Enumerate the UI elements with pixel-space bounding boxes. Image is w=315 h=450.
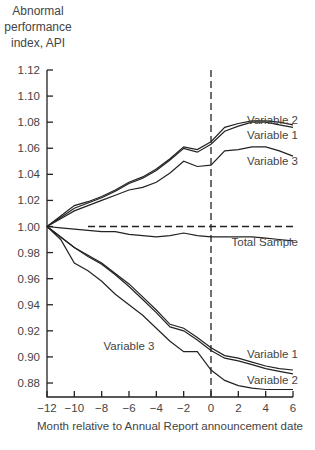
y-tick-label: 1.02 — [18, 194, 40, 206]
y-tick-label: 0.98 — [18, 247, 40, 259]
x-tick-label: −6 — [122, 402, 135, 414]
x-tick-label: −10 — [65, 402, 85, 414]
x-tick-label: 2 — [235, 402, 241, 414]
y-tick-label: 0.90 — [18, 351, 40, 363]
label-variable-3-lower: Variable 3 — [104, 340, 155, 352]
label-variable-2-upper: Variable 2 — [247, 114, 298, 126]
series-labels: Variable 2Variable 1Variable 3Total Samp… — [104, 114, 298, 387]
x-tick-label: 4 — [262, 402, 269, 414]
x-tick-label: 6 — [290, 402, 296, 414]
y-label-line: Abnormal — [12, 4, 63, 18]
y-tick-label: 1.06 — [18, 142, 40, 154]
x-axis-label: Month relative to Annual Report announce… — [37, 420, 303, 432]
x-tick-labels: −12−10−8−6−4−20246 — [37, 402, 296, 414]
y-tick-label: 1.00 — [18, 221, 40, 233]
label-variable-1-lower: Variable 1 — [247, 348, 298, 360]
y-tick-label: 0.96 — [18, 273, 40, 285]
y-axis-label: Abnormalperformanceindex, API — [4, 4, 72, 50]
line-chart: Abnormalperformanceindex, API 0.880.900.… — [0, 0, 315, 450]
x-tick-label: −2 — [177, 402, 190, 414]
label-variable-1-upper: Variable 1 — [247, 129, 298, 141]
line-variable-3-lower — [47, 227, 293, 390]
y-tick-label: 1.04 — [18, 168, 41, 180]
label-variable-2-lower: Variable 2 — [247, 374, 298, 386]
y-tick-label: 0.94 — [18, 299, 41, 311]
y-tick-label: 1.12 — [18, 64, 40, 76]
label-variable-3-upper: Variable 3 — [247, 155, 298, 167]
x-tick-label: 0 — [208, 402, 214, 414]
y-label-line: performance — [4, 20, 72, 34]
x-tick-label: −4 — [150, 402, 164, 414]
y-tick-label: 0.88 — [18, 377, 40, 389]
y-tick-labels: 0.880.900.920.940.960.981.001.021.041.06… — [18, 64, 41, 389]
x-tick-label: −8 — [95, 402, 108, 414]
x-tick-label: −12 — [37, 402, 57, 414]
y-tick-label: 1.10 — [18, 90, 40, 102]
y-tick-label: 0.92 — [18, 325, 40, 337]
y-tick-label: 1.08 — [18, 116, 40, 128]
y-label-line: index, API — [11, 36, 65, 50]
label-total-sample-middle: Total Sample — [232, 236, 298, 248]
